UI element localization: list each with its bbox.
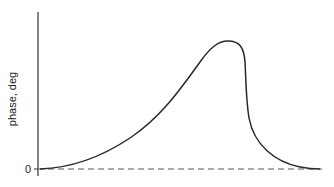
y-axis-label: phase, deg [6,72,18,126]
phase-chart: 0 phase, deg [0,0,334,187]
phase-curve [40,41,320,169]
y-tick-zero: 0 [25,163,31,175]
